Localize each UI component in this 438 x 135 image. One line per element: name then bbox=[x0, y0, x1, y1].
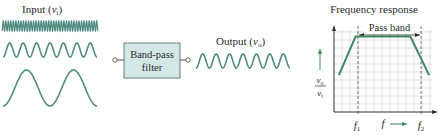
svg-text:Input (vi): Input (vi) bbox=[22, 3, 62, 17]
output-terminal-icon bbox=[186, 58, 190, 62]
input-label: Input (vi) bbox=[22, 3, 62, 17]
y-direction-arrow-icon bbox=[318, 48, 322, 54]
y-label-denominator: vi bbox=[317, 88, 323, 99]
low-frequency-input-wave bbox=[3, 70, 97, 106]
pass-band-right-arrow-icon bbox=[415, 33, 420, 37]
output-label: Output (vo) bbox=[216, 35, 265, 49]
input-terminal-icon bbox=[113, 58, 117, 62]
y-axis-arrow-icon bbox=[332, 25, 336, 31]
pass-band-label: Pass band bbox=[369, 22, 411, 33]
y-label-numerator: vo bbox=[317, 75, 324, 86]
filter-label-line1: Band-pass bbox=[130, 49, 174, 60]
f1-label: f1 bbox=[354, 119, 361, 133]
output-wave bbox=[196, 54, 290, 68]
x-axis-label: f bbox=[381, 117, 386, 129]
band-pass-filter-block: Band-pass filter bbox=[113, 43, 190, 78]
chart-grid bbox=[334, 30, 432, 112]
chart-title: Frequency response bbox=[330, 3, 418, 15]
high-frequency-input-wave bbox=[2, 21, 98, 31]
x-direction-arrow-icon bbox=[402, 122, 408, 126]
f2-label: f2 bbox=[418, 119, 425, 133]
mid-frequency-input-wave bbox=[3, 43, 97, 57]
y-axis-label: vo vi bbox=[315, 48, 326, 99]
x-axis-arrow-icon bbox=[432, 110, 438, 114]
filter-label-line2: filter bbox=[142, 62, 163, 73]
svg-text:Output (vo): Output (vo) bbox=[216, 35, 265, 49]
